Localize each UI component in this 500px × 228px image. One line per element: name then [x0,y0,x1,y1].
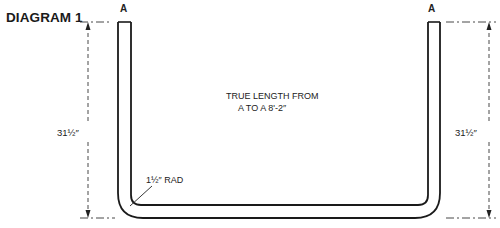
pipe-outer-wall [118,22,440,218]
endpoint-label-left: A [120,3,127,14]
note-line-2: A TO A 8'-2″ [238,102,286,114]
endpoint-label-right: A [428,3,435,14]
radius-leader-line [130,186,152,206]
right-height-dimension: 31½″ [455,127,477,138]
right-arrow-up-icon [487,22,492,30]
arrowheads [86,22,492,218]
bend-radius-label: 1½″ RAD [146,175,183,185]
extension-lines [80,22,496,218]
note-line-1: TRUE LENGTH FROM [226,90,319,102]
left-height-dimension: 31½″ [57,127,79,138]
left-arrow-up-icon [86,22,91,30]
right-arrow-down-icon [487,210,492,218]
left-arrow-down-icon [86,210,91,218]
u-pipe-drawing [0,0,500,228]
